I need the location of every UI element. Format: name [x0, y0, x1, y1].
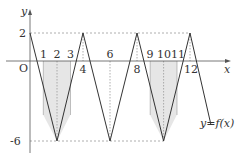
x-tick-2: 2	[54, 48, 61, 61]
x-tick-4: 4	[80, 63, 87, 76]
y-axis-label: y	[20, 5, 28, 18]
x-tick-1: 1	[40, 48, 47, 61]
x-axis-label: x	[224, 63, 231, 76]
y-tick-neg6: -6	[10, 135, 21, 148]
y-axis-arrow-icon	[28, 9, 32, 15]
y-tick-2: 2	[19, 27, 26, 40]
x-tick-12: 12	[184, 63, 198, 76]
x-tick-6: 6	[107, 48, 114, 61]
x-tick-3: 3	[67, 48, 74, 61]
function-label: y=f(x)	[199, 117, 234, 130]
function-graph: y x O 2 -6 1 2 3 4 6 8 9 10 11 12 y=f(x)	[0, 0, 240, 155]
x-tick-11: 11	[171, 48, 185, 61]
origin-label: O	[19, 62, 28, 75]
x-tick-9: 9	[147, 48, 154, 61]
x-tick-8: 8	[134, 63, 141, 76]
x-tick-10: 10	[157, 48, 171, 61]
